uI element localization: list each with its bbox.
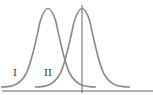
curve-i-label: I	[13, 67, 17, 78]
distribution-diagram: I II	[0, 0, 153, 95]
curve-ii-label: II	[44, 67, 52, 78]
